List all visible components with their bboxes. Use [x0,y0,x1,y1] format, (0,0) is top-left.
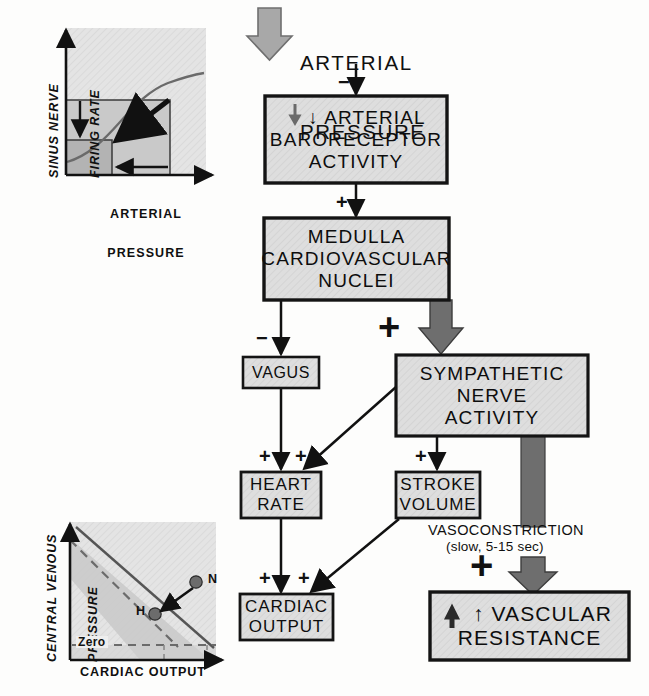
chart1-x-axis-label: ARTERIAL PRESSURE [86,182,206,273]
box-medulla-label: MEDULLA CARDIOVASCULAR NUCLEI [264,218,449,300]
connector-sympathetic-vasoconstriction-bar [521,435,545,527]
sign-sympathetic-in: + [378,312,400,342]
box-sympathetic-label: SYMPATHETIC NERVE ACTIVITY [396,355,588,436]
sign-heart-rate-left: + [259,446,271,467]
vasoconstriction-label: VASOCONSTRICTION [428,523,584,538]
box-cardiac-output-label: CARDIAC OUTPUT [240,594,333,640]
box-baroreceptor-label: ↓ ARTERIAL BARORECEPTOR ACTIVITY [265,96,447,183]
figure-canvas: ARTERIAL PRESSURE SINUS NERVE FIRING RAT… [0,0,649,696]
connector-stroke-volume-to-cardiac-output [312,519,399,591]
connector-sympathetic-to-heart-rate [305,387,396,468]
box-stroke-volume-label: STROKE VOLUME [396,472,480,518]
chart2-zero-label: Zero [76,636,108,648]
box-vagus-label: VAGUS [243,357,319,388]
vasoconstriction-timing-label: (slow, 5-15 sec) [446,540,544,554]
connector-medulla-to-sympathetic-bold [419,300,463,354]
chart2-point-H [149,608,161,620]
sign-cardiac-output-left: + [259,568,271,589]
arterial-pressure-decrease-arrow [247,8,292,60]
chart2-point-N [190,576,202,588]
sign-cardiac-output-right: + [298,568,310,589]
chart2-point-H-label: H [136,605,145,618]
sign-vagus-in: − [256,328,268,349]
chart2-point-N-label: N [208,573,217,586]
chart1-y-axis-label: SINUS NERVE FIRING RATE [22,18,115,178]
sign-medulla-in: + [336,192,348,213]
sign-baroreceptor-in: − [338,72,350,93]
sign-stroke-volume-in: + [415,446,427,467]
sign-vascular-resistance-in: + [470,549,493,581]
box-vascular-resistance-label: ↑ VASCULAR RESISTANCE [430,592,629,660]
connector-vasoconstriction-to-vascular-resistance-bold [509,557,557,595]
box-heart-rate-label: HEART RATE [241,472,321,518]
chart2-x-axis-label: CARDIAC OUTPUT [48,666,238,679]
sign-heart-rate-right: + [295,446,307,467]
